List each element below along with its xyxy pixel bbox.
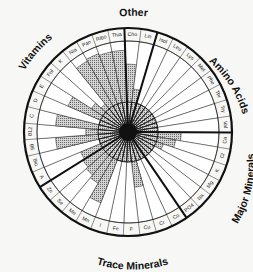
segment-label: Ca — [221, 137, 228, 144]
segment-label: K — [57, 57, 64, 64]
segment-label: I — [99, 222, 102, 228]
wheel-hub — [119, 123, 137, 141]
segment-label: Thr — [214, 89, 223, 99]
segment-label: Se — [56, 197, 65, 206]
segment-label: E — [38, 83, 45, 89]
segment-label: Cho — [128, 31, 138, 37]
segment-label: Bio — [32, 158, 40, 167]
group-label-trace-minerals: Trace Minerals — [96, 255, 169, 272]
nutrient-wheel-chart: ChoLinIsolLeuLysMetPheThrTryValCaClKMgNa… — [0, 0, 253, 272]
segment-label: Pan — [81, 38, 92, 47]
segment-label: Cr — [158, 219, 165, 227]
segment-label: C — [28, 113, 35, 118]
segment-label: Fe — [112, 225, 119, 232]
segment-label: Zn — [46, 186, 54, 195]
segment-label: Cu — [143, 223, 151, 230]
segment-label: D — [32, 97, 39, 103]
segment-label: Thia — [111, 31, 122, 38]
segment-label: Mo — [68, 207, 77, 216]
group-label-other: Other — [119, 6, 149, 19]
segment-label: Lin — [144, 32, 152, 39]
segment-label: Mg — [205, 179, 214, 188]
segment-label: F — [130, 226, 133, 232]
segment-label: Try — [220, 105, 228, 114]
group-label-major-minerals: Major Minerals — [229, 153, 253, 225]
group-divider — [137, 132, 232, 133]
segment-label: K — [213, 167, 220, 173]
segment-label: A — [39, 174, 46, 180]
segment-label: Na — [196, 192, 205, 201]
segment-label: Nia — [68, 46, 78, 55]
segment-label: Co — [172, 212, 181, 221]
segment-label: Isol — [158, 36, 168, 45]
segment-label: Ribo — [95, 33, 107, 42]
segment-label: Val — [223, 121, 230, 129]
segment-label: Fol — [45, 68, 54, 77]
segment-label: Cl — [218, 153, 225, 159]
segment-label: B6 — [29, 143, 36, 150]
segment-label: B12 — [27, 127, 33, 136]
segment-label: Mn — [81, 215, 90, 224]
